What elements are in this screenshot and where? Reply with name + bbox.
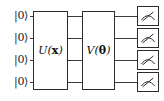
qubit-label-1: |0⟩ (14, 32, 28, 43)
wire-q2-seg-mid (67, 60, 83, 61)
gate-u-paren-close: ) (58, 44, 62, 57)
gate-v-paren-close: ) (106, 44, 110, 57)
gate-variational-v[interactable]: V(θ) (82, 11, 115, 90)
qubit-label-0: |0⟩ (14, 10, 28, 21)
wire-q1-seg-mid (67, 38, 83, 39)
wire-q0-seg-out (114, 16, 138, 17)
measurement-meter-icon (138, 29, 158, 47)
measurement-meter-icon (138, 7, 158, 25)
qubit-label-2: |0⟩ (14, 54, 28, 65)
measurement-gate-q0[interactable] (137, 6, 159, 26)
qubit-label-3: |0⟩ (14, 76, 28, 87)
wire-q3-seg-out (114, 82, 138, 83)
gate-u-name: U (38, 44, 47, 57)
measurement-meter-icon (138, 73, 158, 91)
wire-q2-seg-out (114, 60, 138, 61)
measurement-gate-q1[interactable] (137, 28, 159, 48)
measurement-gate-q2[interactable] (137, 50, 159, 70)
gate-encoding-u-label: U(x) (38, 45, 62, 56)
quantum-circuit-diagram: |0⟩ |0⟩ |0⟩ |0⟩ U(x) V(θ) (0, 0, 164, 101)
wire-q0-seg-mid (67, 16, 83, 17)
measurement-gate-q3[interactable] (137, 72, 159, 92)
wire-q1-seg-out (114, 38, 138, 39)
wire-q3-seg-mid (67, 82, 83, 83)
measurement-meter-icon (138, 51, 158, 69)
gate-encoding-u[interactable]: U(x) (33, 11, 68, 90)
gate-variational-v-label: V(θ) (87, 45, 111, 56)
gate-v-name: V (87, 44, 95, 57)
